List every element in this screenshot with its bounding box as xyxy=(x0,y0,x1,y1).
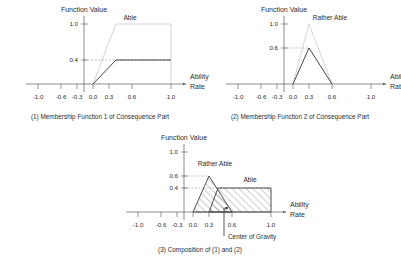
x-axis-title-line1: Ability xyxy=(390,73,401,81)
x-tick-label-neg-0-3: -0.3 xyxy=(72,93,83,100)
x-tick-label-0-3: 0.3 xyxy=(205,221,214,228)
panel-caption: (1) Membership Function 1 of Consequence… xyxy=(31,113,169,121)
series-label-able: Able xyxy=(243,176,257,183)
series-able-clipped xyxy=(93,60,171,84)
y-tick-label-0-4: 0.4 xyxy=(169,184,178,191)
x-tick-label-0-0: 0.0 xyxy=(189,221,198,228)
x-tick-label-0-6: 0.6 xyxy=(228,221,237,228)
series-label-rather-able: Rather Able xyxy=(313,14,348,21)
y-tick-label-1-0: 1.0 xyxy=(269,20,278,27)
chart-composition: Function Value Ability Rate Rather Able … xyxy=(100,128,300,257)
y-tick-label-0-4: 0.4 xyxy=(69,56,78,63)
panel-composition: Function Value Ability Rate Rather Able … xyxy=(100,128,300,257)
x-tick-label-neg-0-6: -0.6 xyxy=(56,93,67,100)
x-axis-title-line2: Rate xyxy=(290,211,305,218)
x-tick-label-neg-0-3: -0.3 xyxy=(172,221,183,228)
y-tick-label-0-6: 0.6 xyxy=(269,44,278,51)
panel-membership-function-1: Function Value Ability Rate Able 1.0 0.4… xyxy=(0,0,200,128)
x-tick-label-1-0: 1.0 xyxy=(167,93,176,100)
panel-caption: (3) Composition of (1) and (2) xyxy=(158,246,242,254)
y-tick-label-1-0: 1.0 xyxy=(169,148,178,155)
x-tick-label-neg-1-0: -1.0 xyxy=(233,93,244,100)
y-axis-title: Function Value xyxy=(61,6,107,13)
y-axis-title: Function Value xyxy=(161,134,207,141)
series-label-able: Able xyxy=(123,14,137,21)
panel-membership-function-2: Function Value Ability Rate Rather Able … xyxy=(200,0,401,128)
series-able-ghost xyxy=(93,24,171,84)
y-axis-title: Function Value xyxy=(261,6,307,13)
x-tick-label-0-6: 0.6 xyxy=(128,93,137,100)
x-tick-label-neg-0-6: -0.6 xyxy=(156,221,167,228)
x-axis-title-line2: Rate xyxy=(390,83,401,90)
x-axis-title-line1: Ability xyxy=(290,201,309,209)
x-tick-label-1-0: 1.0 xyxy=(267,221,276,228)
x-tick-label-0-6: 0.6 xyxy=(328,93,337,100)
series-rather-able-clipped xyxy=(293,48,332,84)
x-tick-label-neg-1-0: -1.0 xyxy=(33,93,44,100)
y-tick-label-0-6: 0.6 xyxy=(169,172,178,179)
x-tick-label-0-0: 0.0 xyxy=(289,93,298,100)
center-of-gravity-label: Center of Gravity xyxy=(228,233,277,241)
chart-membership-function-1: Function Value Ability Rate Able 1.0 0.4… xyxy=(0,0,200,128)
panel-caption: (2) Membership Function 2 of Consequence… xyxy=(231,113,369,121)
y-tick-label-1-0: 1.0 xyxy=(69,20,78,27)
x-tick-label-0-3: 0.3 xyxy=(305,93,314,100)
x-tick-label-0-0: 0.0 xyxy=(89,93,98,100)
series-label-rather-able: Rather Able xyxy=(198,160,233,167)
x-tick-label-neg-0-6: -0.6 xyxy=(256,93,267,100)
x-tick-label-0-3: 0.3 xyxy=(105,93,114,100)
chart-membership-function-2: Function Value Ability Rate Rather Able … xyxy=(200,0,401,128)
x-tick-label-neg-1-0: -1.0 xyxy=(133,221,144,228)
x-tick-label-1-0: 1.0 xyxy=(367,93,376,100)
x-tick-label-neg-0-3: -0.3 xyxy=(272,93,283,100)
